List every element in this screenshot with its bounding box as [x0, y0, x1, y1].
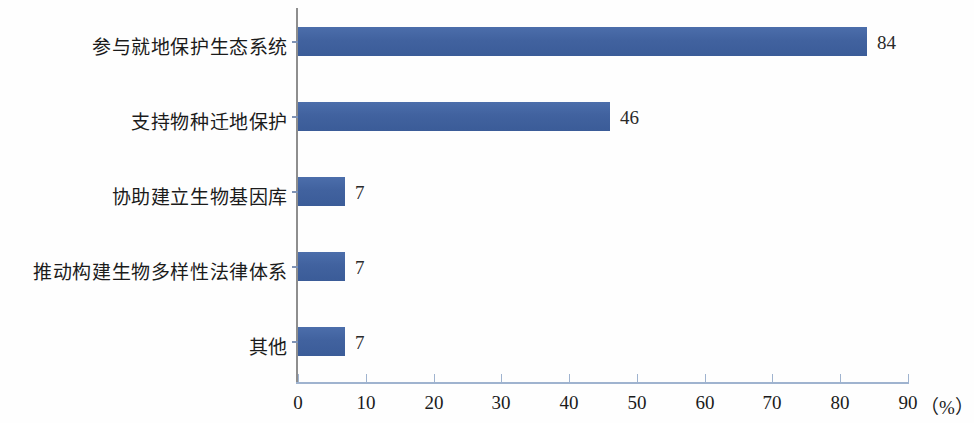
x-axis-tick-label-4: 40 — [560, 392, 579, 414]
x-axis-tick-7 — [772, 374, 773, 383]
x-axis-tick-4 — [569, 374, 570, 383]
value-label-3: 7 — [355, 258, 365, 277]
x-axis-tick-1 — [366, 374, 367, 383]
value-label-1: 46 — [620, 108, 639, 127]
x-axis-tick-0 — [298, 374, 299, 383]
x-axis-tick-2 — [434, 374, 435, 383]
value-label-4: 7 — [355, 333, 365, 352]
bar-2 — [298, 177, 345, 206]
bar-0 — [298, 27, 867, 56]
category-label-4: 其他 — [0, 332, 288, 359]
bar-4 — [298, 327, 345, 356]
x-axis-tick-label-5: 50 — [628, 392, 647, 414]
category-label-1: 支持物种迁地保护 — [0, 107, 288, 134]
x-axis-tick-label-7: 70 — [763, 392, 782, 414]
x-axis-unit-label: （%） — [920, 392, 974, 419]
category-label-3: 推动构建生物多样性法律体系 — [0, 257, 288, 284]
x-axis-line — [296, 382, 909, 384]
x-axis-tick-3 — [501, 374, 502, 383]
value-label-0: 84 — [877, 33, 896, 52]
x-axis-tick-label-6: 60 — [696, 392, 715, 414]
x-axis-tick-5 — [637, 374, 638, 383]
x-axis-tick-9 — [908, 374, 909, 383]
x-axis-tick-label-9: 90 — [899, 392, 918, 414]
bar-3 — [298, 252, 345, 281]
x-axis-tick-label-3: 30 — [492, 392, 511, 414]
category-label-2: 协助建立生物基因库 — [0, 182, 288, 209]
value-label-2: 7 — [355, 183, 365, 202]
x-axis-tick-label-2: 20 — [425, 392, 444, 414]
x-axis-tick-label-1: 10 — [357, 392, 376, 414]
x-axis-tick-8 — [840, 374, 841, 383]
x-axis-tick-label-0: 0 — [293, 392, 303, 414]
bar-1 — [298, 102, 610, 131]
bar-chart: 参与就地保护生态系统 支持物种迁地保护 协助建立生物基因库 推动构建生物多样性法… — [0, 0, 974, 423]
x-axis-tick-label-8: 80 — [831, 392, 850, 414]
x-axis-tick-6 — [705, 374, 706, 383]
category-label-0: 参与就地保护生态系统 — [0, 32, 288, 59]
